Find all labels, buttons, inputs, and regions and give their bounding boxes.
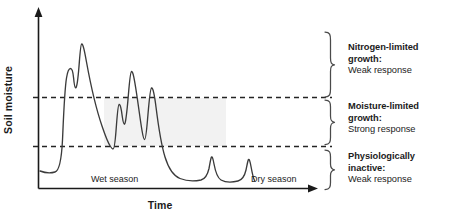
annotation-nitrogen-limited: Nitrogen-limited growth: Weak response bbox=[348, 42, 449, 77]
brace-moisture bbox=[325, 100, 335, 145]
wet-season-label: Wet season bbox=[91, 174, 138, 184]
dry-season-label: Dry season bbox=[251, 174, 297, 184]
annotation-moisture-detail: Strong response bbox=[348, 124, 449, 136]
y-axis-arrowhead bbox=[35, 7, 43, 17]
y-axis-label: Soil moisture bbox=[2, 52, 14, 148]
soil-moisture-zone-diagram: Soil moisture Time Wet season Dry season… bbox=[0, 0, 449, 219]
x-axis-label: Time bbox=[0, 199, 320, 211]
annotation-nitrogen-title-line2: growth: bbox=[348, 54, 449, 66]
annotation-moisture-title-line2: growth: bbox=[348, 113, 449, 125]
annotation-nitrogen-title-line1: Nitrogen-limited bbox=[348, 42, 449, 54]
brace-inactive bbox=[325, 150, 335, 190]
brace-nitrogen bbox=[325, 32, 335, 97]
annotation-inactive-detail: Weak response bbox=[348, 174, 449, 186]
annotation-inactive-title-line2: inactive: bbox=[348, 163, 449, 175]
annotation-moisture-limited: Moisture-limited growth: Strong response bbox=[348, 101, 449, 136]
moisture-zone-shading bbox=[104, 98, 226, 146]
annotation-nitrogen-detail: Weak response bbox=[348, 65, 449, 77]
annotation-physiologically-inactive: Physiologically inactive: Weak response bbox=[348, 151, 449, 186]
annotation-inactive-title-line1: Physiologically bbox=[348, 151, 449, 163]
x-axis-arrowhead bbox=[308, 185, 318, 193]
annotation-moisture-title-line1: Moisture-limited bbox=[348, 101, 449, 113]
